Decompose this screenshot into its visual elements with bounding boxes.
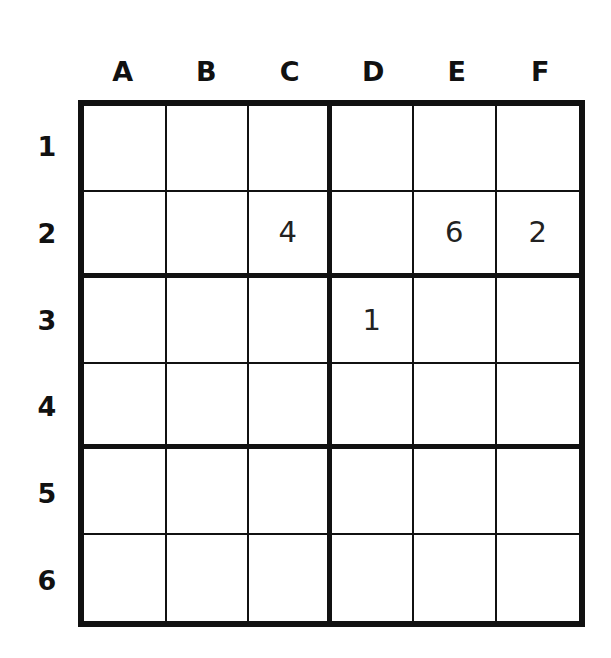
cell-c1[interactable] [249,106,332,192]
row-label-6: 6 [22,537,72,624]
cell-c4[interactable] [249,364,332,450]
cell-d3: 1 [332,278,415,364]
cell-d4[interactable] [332,364,415,450]
cell-e6[interactable] [414,535,497,621]
cell-c5[interactable] [249,449,332,535]
row-labels: 1 2 3 4 5 6 [22,103,72,624]
column-label-d: D [332,52,416,92]
cell-a5[interactable] [84,449,167,535]
cell-f4[interactable] [497,364,580,450]
cell-f5[interactable] [497,449,580,535]
column-label-c: C [248,52,332,92]
cell-e5[interactable] [414,449,497,535]
cell-b3[interactable] [167,278,250,364]
cell-c6[interactable] [249,535,332,621]
row-label-4: 4 [22,363,72,450]
cell-d6[interactable] [332,535,415,621]
cell-a2[interactable] [84,192,167,278]
column-labels: A B C D E F [81,52,582,92]
cell-d2[interactable] [332,192,415,278]
cell-f1[interactable] [497,106,580,192]
cell-a6[interactable] [84,535,167,621]
cell-e4[interactable] [414,364,497,450]
cell-f3[interactable] [497,278,580,364]
cell-c3[interactable] [249,278,332,364]
cell-d1[interactable] [332,106,415,192]
row-label-3: 3 [22,277,72,364]
column-label-b: B [165,52,249,92]
column-label-a: A [81,52,165,92]
cell-f6[interactable] [497,535,580,621]
sudoku-board: 4 6 2 1 [78,100,585,627]
cell-f2: 2 [497,192,580,278]
cell-a3[interactable] [84,278,167,364]
cell-a1[interactable] [84,106,167,192]
cell-b2[interactable] [167,192,250,278]
cell-b5[interactable] [167,449,250,535]
cell-b6[interactable] [167,535,250,621]
column-label-e: E [415,52,499,92]
cell-b1[interactable] [167,106,250,192]
cell-e1[interactable] [414,106,497,192]
row-label-5: 5 [22,450,72,537]
cell-b4[interactable] [167,364,250,450]
cell-e2: 6 [414,192,497,278]
row-label-1: 1 [22,103,72,190]
cell-a4[interactable] [84,364,167,450]
cell-e3[interactable] [414,278,497,364]
row-label-2: 2 [22,190,72,277]
cell-c2: 4 [249,192,332,278]
column-label-f: F [499,52,583,92]
cell-d5[interactable] [332,449,415,535]
